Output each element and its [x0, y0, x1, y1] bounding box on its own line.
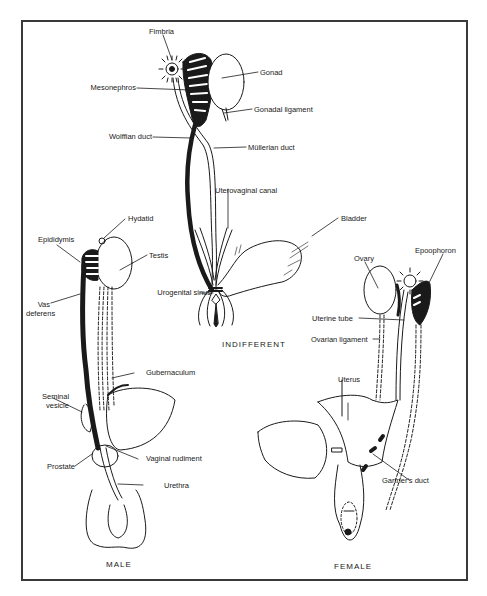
prostate-shape	[92, 445, 118, 467]
label-uterine-tube: Uterine tube	[312, 314, 353, 323]
label-seminal-vesicle-line1: Seminal	[42, 392, 69, 401]
label-fimbria: Fimbria	[149, 27, 174, 36]
gonad-shape	[208, 54, 244, 110]
label-hydatid: Hydatid	[128, 214, 153, 223]
bladder-shape	[218, 241, 301, 297]
caption-male: MALE	[106, 560, 132, 569]
female-bladder-shape	[258, 421, 327, 478]
label-bladder: Bladder	[341, 214, 367, 223]
label-testis: Testis	[149, 251, 168, 260]
label-prostate: Prostate	[47, 462, 75, 471]
label-vaginal-rudiment: Vaginal rudiment	[146, 454, 202, 463]
uterus-shape	[318, 395, 398, 466]
label-urethra: Urethra	[164, 481, 189, 490]
label-mullerian-duct: Müllerian duct	[248, 143, 295, 152]
male-stage-drawing	[81, 237, 175, 548]
label-gubernaculum: Gubernaculum	[146, 368, 195, 377]
label-vas-deferens-line1: Vas	[26, 300, 50, 309]
label-epididymis: Epididymis	[38, 235, 74, 244]
urethra-shape	[100, 448, 122, 500]
male-bladder-shape	[107, 388, 176, 450]
caption-indifferent: INDIFFERENT	[222, 340, 286, 349]
label-ovary: Ovary	[354, 254, 374, 263]
vas-deferens-shape	[83, 265, 98, 448]
label-epoophoron: Epoophoron	[415, 246, 456, 255]
label-gartners-duct: Gartner's duct	[382, 476, 429, 485]
caption-female: FEMALE	[334, 562, 372, 571]
ovary-shape	[364, 266, 396, 314]
label-mesonephros: Mesonephros	[88, 83, 136, 92]
female-stage-drawing	[258, 266, 431, 540]
label-gonad: Gonad	[260, 68, 283, 77]
label-vas-deferens-line2: deferens	[26, 309, 55, 318]
testis-shape	[96, 237, 132, 289]
label-urogenital-sinus: Urogenital sinus	[140, 288, 211, 297]
label-gonadal-ligament: Gonadal ligament	[254, 105, 313, 114]
label-uterus: Uterus	[338, 375, 360, 384]
label-ovarian-ligament: Ovarian ligament	[311, 335, 368, 344]
epoophoron-shape	[411, 281, 430, 325]
gartners-duct-shape	[363, 436, 383, 470]
label-wolffian-duct: Wolffian duct	[100, 132, 152, 141]
reproductive-development-diagram	[0, 0, 487, 596]
label-seminal-vesicle-line2: vesicle	[46, 401, 69, 410]
label-uterovaginal-canal: Uterovaginal canal	[215, 186, 277, 195]
